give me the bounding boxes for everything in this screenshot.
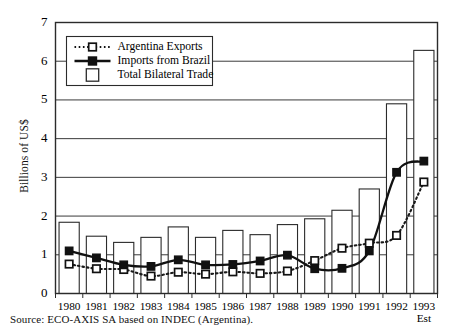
legend-label: Total Bilateral Trade bbox=[118, 68, 214, 81]
marker-imports-from-brazil bbox=[202, 261, 209, 268]
marker-imports-from-brazil bbox=[311, 265, 318, 272]
legend-marker-filled-square-icon bbox=[89, 57, 97, 65]
y-tick-label: 7 bbox=[41, 14, 48, 29]
marker-argentina-exports bbox=[65, 260, 72, 267]
trade-chart: 01234567 1980198119821983198419851986198… bbox=[0, 0, 460, 332]
x-tick-label: 1986 bbox=[222, 300, 245, 312]
y-tick-labels: 01234567 bbox=[41, 14, 48, 300]
marker-imports-from-brazil bbox=[175, 256, 182, 263]
marker-argentina-exports bbox=[256, 270, 263, 277]
marker-argentina-exports bbox=[229, 268, 236, 275]
marker-imports-from-brazil bbox=[256, 257, 263, 264]
y-tick-label: 1 bbox=[41, 246, 48, 261]
marker-imports-from-brazil bbox=[93, 254, 100, 261]
y-tick-label: 6 bbox=[41, 53, 48, 68]
marker-argentina-exports bbox=[147, 272, 154, 279]
marker-imports-from-brazil bbox=[229, 261, 236, 268]
marker-imports-from-brazil bbox=[65, 247, 72, 254]
x-tick-label: 1988 bbox=[276, 300, 299, 312]
source-note: Source: ECO-AXIS SA based on INDEC (Arge… bbox=[10, 313, 253, 325]
x-tick-label: 1981 bbox=[85, 300, 108, 312]
marker-argentina-exports bbox=[366, 239, 373, 246]
y-tick-label: 4 bbox=[41, 130, 48, 145]
marker-imports-from-brazil bbox=[284, 251, 291, 258]
marker-imports-from-brazil bbox=[338, 265, 345, 272]
marker-argentina-exports bbox=[393, 232, 400, 239]
y-tick-label: 5 bbox=[41, 91, 48, 106]
legend-marker-bar-swatch-icon bbox=[86, 69, 98, 81]
x-tick-label: 1990 bbox=[331, 300, 354, 312]
marker-argentina-exports bbox=[93, 265, 100, 272]
x-axis-annotation-est: Est bbox=[417, 312, 432, 324]
marker-argentina-exports bbox=[175, 269, 182, 276]
chart-legend: Argentina ExportsImports from BrazilTota… bbox=[67, 37, 214, 86]
x-tick-label: 1982 bbox=[112, 300, 135, 312]
legend-marker-open-square-icon bbox=[89, 43, 97, 51]
bar-total-bilateral-trade bbox=[414, 50, 434, 293]
y-tick-label: 0 bbox=[41, 285, 48, 300]
marker-argentina-exports bbox=[202, 270, 209, 277]
y-tick-label: 2 bbox=[41, 208, 48, 223]
marker-imports-from-brazil bbox=[147, 263, 154, 270]
bars-group bbox=[59, 50, 434, 293]
x-tick-label: 1991 bbox=[358, 300, 381, 312]
x-tick-label: 1980 bbox=[58, 300, 81, 312]
marker-argentina-exports bbox=[311, 257, 318, 264]
bar-total-bilateral-trade bbox=[59, 222, 79, 293]
marker-imports-from-brazil bbox=[366, 247, 373, 254]
x-tick-label: 1989 bbox=[303, 300, 326, 312]
x-tick-label: 1985 bbox=[194, 300, 217, 312]
x-tick-label: 1983 bbox=[140, 300, 163, 312]
marker-imports-from-brazil bbox=[420, 157, 427, 164]
marker-argentina-exports bbox=[420, 178, 427, 185]
x-tick-label: 1992 bbox=[385, 300, 408, 312]
marker-argentina-exports bbox=[284, 267, 291, 274]
marker-argentina-exports bbox=[338, 245, 345, 252]
x-tick-label: 1993 bbox=[413, 300, 436, 312]
legend-label: Argentina Exports bbox=[118, 40, 204, 53]
y-tick-label: 3 bbox=[41, 169, 48, 184]
marker-imports-from-brazil bbox=[393, 169, 400, 176]
legend-label: Imports from Brazil bbox=[118, 54, 211, 67]
x-tick-label: 1984 bbox=[167, 300, 190, 312]
figure-container: Billions of US$ 01234567 198019811982198… bbox=[0, 0, 460, 332]
bar-total-bilateral-trade bbox=[386, 104, 406, 294]
x-tick-label: 1987 bbox=[249, 300, 272, 312]
marker-imports-from-brazil bbox=[120, 261, 127, 268]
